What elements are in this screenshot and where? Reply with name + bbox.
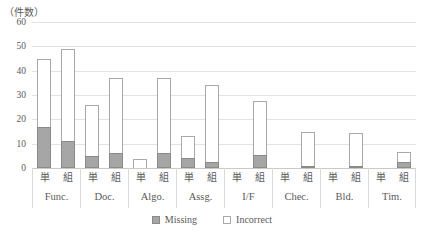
y-axis-tick-labels: 0102030405060 bbox=[0, 22, 28, 168]
sub-label-kumi: 組 bbox=[345, 168, 369, 188]
sub-label-kumi: 組 bbox=[392, 168, 415, 188]
sub-label-tan: 単 bbox=[33, 168, 57, 188]
bar-segment-incorrect bbox=[397, 152, 411, 162]
bar-if組 bbox=[253, 101, 267, 168]
category-group-chec: 単組Chec. bbox=[272, 168, 320, 208]
bar-segment-missing bbox=[253, 155, 267, 168]
bar-tim組 bbox=[397, 152, 411, 168]
bar-segment-missing bbox=[181, 158, 195, 168]
y-tick-label-20: 20 bbox=[0, 114, 26, 124]
category-label: Chec. bbox=[273, 188, 320, 206]
legend-label-missing: Missing bbox=[165, 215, 197, 225]
bar-segment-incorrect bbox=[253, 101, 267, 155]
bar-segment-missing bbox=[157, 153, 171, 168]
legend-label-incorrect: Incorrect bbox=[236, 215, 272, 225]
bar-algo組 bbox=[157, 78, 171, 168]
legend-item-incorrect: Incorrect bbox=[223, 215, 272, 225]
bar-segment-incorrect bbox=[349, 133, 363, 166]
plot-area bbox=[32, 22, 416, 168]
sub-label-kumi: 組 bbox=[153, 168, 177, 188]
category-group-if: 単組I/F bbox=[224, 168, 272, 208]
bar-segment-incorrect bbox=[109, 78, 123, 153]
bar-segment-incorrect bbox=[205, 85, 219, 162]
sub-label-kumi: 組 bbox=[105, 168, 129, 188]
y-tick-label-0: 0 bbox=[0, 163, 26, 173]
y-tick-label-60: 60 bbox=[0, 17, 26, 27]
y-tick-label-40: 40 bbox=[0, 66, 26, 76]
category-label: Assg. bbox=[177, 188, 224, 206]
sub-label-tan: 単 bbox=[321, 168, 345, 188]
bar-func組 bbox=[61, 49, 75, 168]
sub-label-kumi: 組 bbox=[201, 168, 225, 188]
sub-label-tan: 単 bbox=[177, 168, 201, 188]
y-tick-label-30: 30 bbox=[0, 90, 26, 100]
bar-bld組 bbox=[349, 133, 363, 168]
sub-label-kumi: 組 bbox=[297, 168, 321, 188]
category-label: Algo. bbox=[129, 188, 176, 206]
bar-assg組 bbox=[205, 85, 219, 168]
bar-segment-incorrect bbox=[133, 159, 147, 168]
category-label: Func. bbox=[33, 188, 80, 206]
bar-segment-missing bbox=[37, 127, 51, 168]
bar-segment-incorrect bbox=[37, 59, 51, 127]
legend-swatch-missing-icon bbox=[152, 216, 160, 224]
bar-func単 bbox=[37, 59, 51, 168]
bar-segment-incorrect bbox=[61, 49, 75, 141]
bar-algo単 bbox=[133, 159, 147, 168]
category-axis: 単組Func.単組Doc.単組Algo.単組Assg.単組I/F単組Chec.単… bbox=[32, 168, 416, 208]
category-label: Doc. bbox=[81, 188, 128, 206]
y-tick-label-10: 10 bbox=[0, 139, 26, 149]
bar-chec組 bbox=[301, 132, 315, 168]
y-tick-label-50: 50 bbox=[0, 41, 26, 51]
bar-segment-incorrect bbox=[181, 136, 195, 158]
bar-assg単 bbox=[181, 136, 195, 168]
category-group-tim: 単組Tim. bbox=[368, 168, 416, 208]
sub-label-tan: 単 bbox=[225, 168, 249, 188]
bar-segment-missing bbox=[61, 141, 75, 168]
sub-label-tan: 単 bbox=[369, 168, 392, 188]
bar-doc単 bbox=[85, 105, 99, 168]
category-group-assg: 単組Assg. bbox=[176, 168, 224, 208]
category-group-bld: 単組Bld. bbox=[320, 168, 368, 208]
category-label: Tim. bbox=[369, 188, 415, 206]
bar-segment-missing bbox=[109, 153, 123, 168]
bars-layer bbox=[32, 22, 416, 168]
bar-segment-missing bbox=[85, 156, 99, 168]
category-label: I/F bbox=[225, 188, 272, 206]
bar-doc組 bbox=[109, 78, 123, 168]
legend-item-missing: Missing bbox=[152, 215, 197, 225]
sub-label-tan: 単 bbox=[273, 168, 297, 188]
sub-label-kumi: 組 bbox=[57, 168, 81, 188]
category-group-doc: 単組Doc. bbox=[80, 168, 128, 208]
category-group-algo: 単組Algo. bbox=[128, 168, 176, 208]
sub-label-kumi: 組 bbox=[249, 168, 273, 188]
bar-segment-incorrect bbox=[157, 78, 171, 153]
bar-segment-incorrect bbox=[301, 132, 315, 166]
category-group-func: 単組Func. bbox=[32, 168, 80, 208]
bar-chart: （件数） 0102030405060 単組Func.単組Doc.単組Algo.単… bbox=[0, 0, 424, 233]
legend-swatch-incorrect-icon bbox=[223, 216, 231, 224]
category-label: Bld. bbox=[321, 188, 368, 206]
sub-label-tan: 単 bbox=[129, 168, 153, 188]
sub-label-tan: 単 bbox=[81, 168, 105, 188]
bar-segment-incorrect bbox=[85, 105, 99, 156]
chart-legend: Missing Incorrect bbox=[0, 210, 424, 230]
